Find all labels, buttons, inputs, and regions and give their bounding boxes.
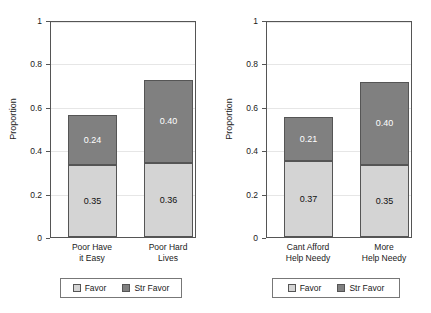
bar-segment-favor-0-left: 0.35 (68, 165, 117, 237)
bar-segment-strfavor-1-right: 0.40 (360, 82, 409, 165)
bar-segment-favor-0-right: 0.37 (284, 161, 333, 237)
bar-group-0-left[interactable]: 0.35 0.24 (68, 115, 117, 237)
stacked-bar-chart-figure: Proportion 0 0.2 0.4 0.6 0.8 1 0.35 0.24 (0, 0, 431, 313)
y-tick-label-5-right: 1 (232, 17, 258, 26)
gridline-4-left (51, 64, 195, 65)
y-tick-label-0-left: 0 (16, 234, 42, 243)
category-label-1-right: More Help Needy (334, 242, 431, 264)
legend-label-favor-right: Favor (300, 283, 322, 293)
legend-item-favor-right[interactable]: Favor (288, 283, 322, 293)
bar-segment-strfavor-0-right: 0.21 (284, 117, 333, 160)
chart-panel-left: Proportion 0 0.2 0.4 0.6 0.8 1 0.35 0.24 (0, 0, 215, 313)
legend-left: Favor Str Favor (60, 278, 182, 298)
bar-group-1-right[interactable]: 0.35 0.40 (360, 82, 409, 237)
bar-segment-strfavor-0-left: 0.24 (68, 115, 117, 165)
y-tick-label-3-left: 0.6 (16, 104, 42, 113)
y-tick-label-2-right: 0.4 (232, 147, 258, 156)
y-axis-label-left: Proportion (2, 0, 24, 238)
category-label-1-line-0-left: Poor Hard (118, 242, 218, 253)
y-tick-label-0-right: 0 (232, 234, 258, 243)
category-label-1-line-1-left: Lives (118, 253, 218, 264)
bar-segment-favor-1-right: 0.35 (360, 165, 409, 237)
legend-label-strfavor-right: Str Favor (349, 283, 384, 293)
legend-swatch-favor-icon-right (288, 284, 296, 292)
y-tick-label-2-left: 0.4 (16, 147, 42, 156)
y-tick-label-4-right: 0.8 (232, 60, 258, 69)
legend-item-strfavor-right[interactable]: Str Favor (337, 283, 384, 293)
bar-segment-strfavor-1-left: 0.40 (144, 80, 193, 163)
legend-swatch-strfavor-icon-left (122, 284, 130, 292)
legend-swatch-strfavor-icon-right (337, 284, 345, 292)
plot-area-left: 0.35 0.24 0.36 0.40 (50, 21, 196, 238)
y-tick-label-3-right: 0.6 (232, 104, 258, 113)
y-axis-label-right: Proportion (218, 0, 240, 238)
gridline-5-right (267, 22, 411, 23)
y-tick-label-5-left: 1 (16, 17, 42, 26)
y-tick-label-4-left: 0.8 (16, 60, 42, 69)
legend-swatch-favor-icon-left (73, 284, 81, 292)
y-tick-0-right (262, 238, 266, 239)
bar-group-1-left[interactable]: 0.36 0.40 (144, 80, 193, 237)
bar-segment-favor-1-left: 0.36 (144, 163, 193, 237)
legend-item-favor-left[interactable]: Favor (73, 283, 107, 293)
legend-label-favor-left: Favor (85, 283, 107, 293)
chart-panel-right: Proportion 0 0.2 0.4 0.6 0.8 1 0.37 0.21 (216, 0, 431, 313)
category-label-1-left: Poor Hard Lives (118, 242, 218, 264)
category-label-1-line-1-right: Help Needy (334, 253, 431, 264)
bar-group-0-right[interactable]: 0.37 0.21 (284, 117, 333, 237)
plot-area-right: 0.37 0.21 0.35 0.40 (266, 21, 412, 238)
legend-right: Favor Str Favor (272, 278, 400, 298)
legend-item-strfavor-left[interactable]: Str Favor (122, 283, 169, 293)
y-tick-0-left (46, 238, 50, 239)
y-tick-label-1-right: 0.2 (232, 190, 258, 199)
gridline-4-right (267, 64, 411, 65)
gridline-5-left (51, 22, 195, 23)
legend-label-strfavor-left: Str Favor (134, 283, 169, 293)
category-label-1-line-0-right: More (334, 242, 431, 253)
y-tick-label-1-left: 0.2 (16, 190, 42, 199)
